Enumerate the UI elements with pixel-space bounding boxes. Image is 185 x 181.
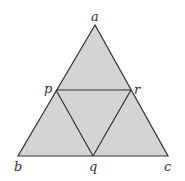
diagram-canvas: a p r b q c bbox=[0, 0, 185, 181]
triangle-diagram: a p r b q c bbox=[0, 0, 185, 181]
vertex-label-q: q bbox=[89, 159, 97, 174]
vertex-label-b: b bbox=[14, 159, 22, 174]
vertex-label-r: r bbox=[134, 82, 141, 97]
vertex-label-p: p bbox=[44, 81, 53, 96]
vertex-label-c: c bbox=[164, 159, 172, 174]
vertex-label-a: a bbox=[91, 9, 99, 24]
